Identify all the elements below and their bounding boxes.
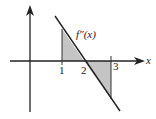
shaded-region-2-to-3 — [84, 61, 111, 99]
tick-label-2: 2 — [81, 64, 87, 76]
graph: f″(x) x 1 2 3 — [0, 0, 156, 119]
tick-label-1: 1 — [59, 64, 65, 76]
curve-label: f″(x) — [76, 28, 96, 41]
x-axis-label: x — [145, 54, 151, 66]
tick-label-3: 3 — [113, 60, 119, 72]
